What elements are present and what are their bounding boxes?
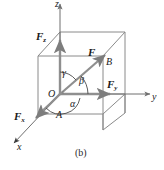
angle-label-gamma: γ <box>62 68 66 78</box>
vector-label-fx-subscript: x <box>21 116 25 124</box>
axis-label-x: x <box>17 142 21 152</box>
cube-edge-depth-bottom-front-right <box>103 113 125 130</box>
vector-label-fz: Fz <box>36 27 46 44</box>
vector-label-fy: Fy <box>107 75 117 92</box>
vector-label-fy-subscript: y <box>114 84 117 92</box>
vector-label-fx: Fx <box>14 107 25 124</box>
figure-caption: (b) <box>75 148 87 158</box>
angle-label-beta: β <box>79 76 84 86</box>
cube-edge-front-bottom <box>38 114 103 130</box>
point-label-o: O <box>48 89 55 99</box>
cube-edge-depth-top-right <box>103 32 125 56</box>
force-components-diagram: z y x Fz Fy Fx F O A B α β γ (b) <box>0 0 164 170</box>
point-label-a: A <box>56 110 62 120</box>
point-label-b: B <box>106 57 112 67</box>
angle-label-alpha: α <box>70 99 75 109</box>
vector-label-f: F <box>88 47 95 58</box>
axis-label-z: z <box>55 0 59 9</box>
cube-edge-depth-bottom-right <box>103 94 125 114</box>
vector-label-fz-subscript: z <box>43 36 46 44</box>
axis-label-y: y <box>152 92 156 102</box>
